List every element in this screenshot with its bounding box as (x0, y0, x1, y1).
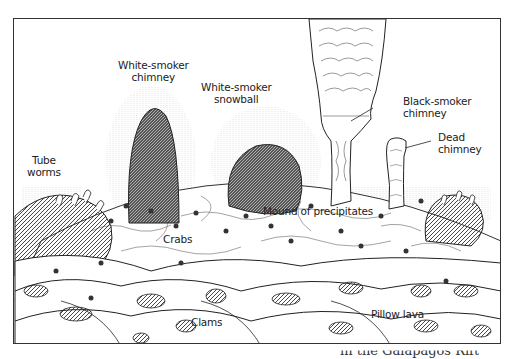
vent-scene-illustration (14, 19, 501, 344)
label-clams: Clams (191, 316, 222, 328)
label-line: chimney (118, 71, 189, 83)
label-mound-of-precipitates: Mound of precipitates (263, 205, 373, 217)
caption-fragment: in the Galápagos Rift (340, 343, 479, 358)
label-line: Tube (27, 154, 61, 166)
diagram-frame: White-smoker chimney White-smoker snowba… (13, 18, 501, 344)
label-dead-chimney: Dead chimney (438, 131, 482, 155)
label-white-smoker-chimney: White-smoker chimney (118, 59, 189, 83)
label-line: worms (27, 166, 61, 178)
label-line: chimney (438, 143, 482, 155)
label-line: snowball (201, 93, 272, 105)
label-white-smoker-snowball: White-smoker snowball (201, 81, 272, 105)
label-crabs: Crabs (163, 233, 192, 245)
label-line: chimney (403, 107, 471, 119)
black-smoker-chimney (309, 19, 386, 206)
label-line: Black-smoker (403, 95, 471, 107)
label-black-smoker-chimney: Black-smoker chimney (403, 95, 471, 119)
label-tube-worms: Tube worms (27, 154, 61, 178)
label-pillow-lava: Pillow lava (371, 308, 424, 320)
label-line: White-smoker (201, 81, 272, 93)
label-line: Dead (438, 131, 482, 143)
label-line: White-smoker (118, 59, 189, 71)
